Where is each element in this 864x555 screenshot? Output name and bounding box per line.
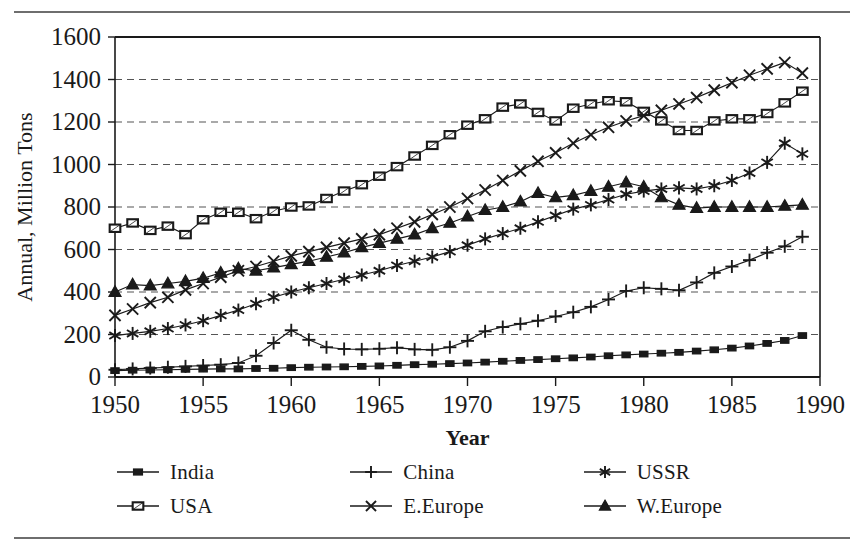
svg-text:1980: 1980 (619, 391, 669, 418)
svg-text:1600: 1600 (51, 23, 101, 50)
legend-marker-open-square-icon (115, 497, 161, 515)
svg-text:1955: 1955 (178, 391, 228, 418)
legend-label: USA (170, 494, 213, 519)
legend-marker-x-icon (348, 497, 394, 515)
svg-text:800: 800 (64, 193, 102, 220)
legend-label: China (403, 460, 454, 485)
legend-item-india[interactable]: India (115, 460, 348, 485)
svg-text:1950: 1950 (90, 391, 140, 418)
svg-text:1990: 1990 (795, 391, 845, 418)
svg-text:1965: 1965 (354, 391, 404, 418)
legend-label: USSR (637, 460, 690, 485)
legend-marker-filled-triangle-icon (582, 497, 628, 515)
legend-item-usa[interactable]: USA (115, 494, 348, 519)
series-china (108, 230, 808, 376)
series-india (111, 333, 806, 373)
series-e-europe (109, 57, 808, 321)
svg-text:Year: Year (446, 425, 490, 450)
svg-text:1975: 1975 (531, 391, 581, 418)
svg-text:1200: 1200 (51, 108, 101, 135)
legend-item-ussr[interactable]: USSR (582, 460, 815, 485)
svg-text:1985: 1985 (707, 391, 757, 418)
svg-text:0: 0 (89, 363, 102, 390)
legend-item-w-europe[interactable]: W.Europe (582, 494, 815, 519)
svg-text:200: 200 (64, 321, 102, 348)
svg-text:1960: 1960 (266, 391, 316, 418)
svg-text:1970: 1970 (443, 391, 493, 418)
svg-text:600: 600 (64, 236, 102, 263)
legend-marker-asterisk-icon (582, 463, 628, 481)
svg-text:Annual, Million Tons: Annual, Million Tons (12, 112, 37, 301)
series-ussr (109, 137, 808, 342)
chart-legend: IndiaChinaUSSRUSAE.EuropeW.Europe (115, 455, 815, 523)
legend-marker-filled-square-icon (115, 463, 161, 481)
legend-label: W.Europe (637, 494, 722, 519)
figure-container: 0200400600800100012001400160019501955196… (0, 0, 864, 555)
svg-text:1400: 1400 (51, 66, 101, 93)
svg-text:400: 400 (64, 278, 102, 305)
series-usa (110, 87, 808, 238)
data-series (108, 57, 808, 376)
legend-item-e-europe[interactable]: E.Europe (348, 494, 581, 519)
legend-marker-plus-icon (348, 463, 394, 481)
legend-label: India (170, 460, 214, 485)
svg-text:1000: 1000 (51, 151, 101, 178)
legend-item-china[interactable]: China (348, 460, 581, 485)
legend-label: E.Europe (403, 494, 483, 519)
